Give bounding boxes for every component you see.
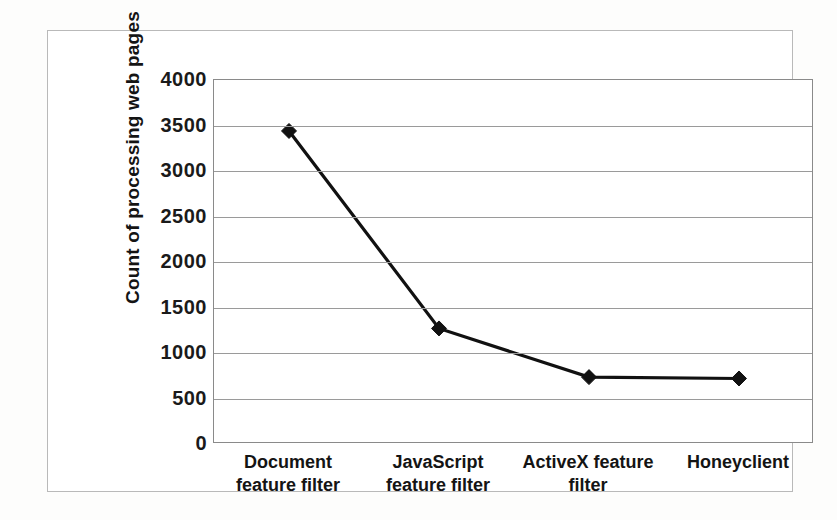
gridline: [214, 308, 812, 309]
gridline: [214, 262, 812, 263]
x-axis-tick-label: Document feature filter: [213, 451, 363, 511]
gridline: [214, 217, 812, 218]
series-line: [289, 131, 739, 379]
chart-figure-frame: Count of processing web pages 0500100015…: [47, 30, 793, 492]
y-axis-tick-label: 2500: [137, 206, 207, 226]
plot-area: [213, 79, 813, 443]
y-axis-tick-label: 1500: [137, 297, 207, 317]
gridline: [214, 399, 812, 400]
x-axis-tick-label: JavaScript feature filter: [363, 451, 513, 511]
gridline: [214, 353, 812, 354]
figure-canvas: Count of processing web pages 0500100015…: [0, 0, 837, 520]
y-axis-tick-label: 500: [137, 388, 207, 408]
series-markers: [282, 123, 747, 386]
x-axis-tick-label: ActiveX feature filter: [513, 451, 663, 511]
y-axis-tick-label: 2000: [137, 251, 207, 271]
data-point-marker: [732, 371, 747, 386]
gridline: [214, 171, 812, 172]
y-axis-tick-labels: 05001000150020002500300035004000: [133, 79, 207, 443]
x-axis-tick-labels: Document feature filterJavaScript featur…: [213, 451, 813, 511]
gridline: [214, 126, 812, 127]
y-axis-tick-label: 1000: [137, 342, 207, 362]
y-axis-tick-label: 3000: [137, 160, 207, 180]
data-point-marker: [582, 370, 597, 385]
y-axis-tick-label: 3500: [137, 115, 207, 135]
x-axis-tick-label: Honeyclient: [663, 451, 813, 511]
y-axis-tick-label: 0: [137, 433, 207, 453]
y-axis-tick-label: 4000: [137, 69, 207, 89]
